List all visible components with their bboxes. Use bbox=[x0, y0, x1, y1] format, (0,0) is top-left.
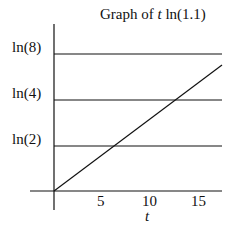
x-tick-10: 10 bbox=[142, 193, 157, 209]
x-axis-label: t bbox=[145, 208, 150, 224]
x-tick-15: 15 bbox=[191, 193, 206, 209]
x-tick-5: 5 bbox=[97, 193, 105, 209]
series-line bbox=[54, 65, 222, 191]
chart-canvas: ln(8) ln(4) ln(2) 5 10 15 t bbox=[0, 0, 235, 229]
y-tick-ln2: ln(2) bbox=[12, 131, 41, 148]
y-tick-ln4: ln(4) bbox=[12, 85, 41, 102]
y-tick-ln8: ln(8) bbox=[12, 39, 41, 56]
